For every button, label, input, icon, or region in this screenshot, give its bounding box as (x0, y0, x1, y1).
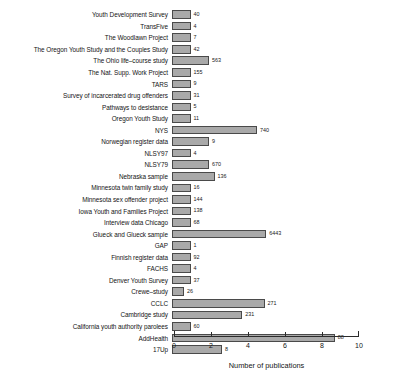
category-label: Interview data Chicago (0, 219, 172, 226)
bar (172, 253, 191, 262)
category-label: Glueck and Glueck sample (0, 231, 172, 238)
category-label: The Ohio life–course study (0, 57, 172, 64)
chart-row: Survey of incarcerated drug offenders31 (0, 90, 397, 102)
category-label: California youth authority parolees (0, 323, 172, 330)
category-label: The Oregon Youth Study and the Couples S… (0, 46, 172, 53)
publications-bar-chart: Youth Development Survey40TransFive4The … (0, 0, 397, 385)
bar-track: 4 (172, 21, 393, 33)
chart-row: Norwegian register data9 (0, 136, 397, 148)
bar (172, 45, 191, 54)
bar-track: 1 (172, 240, 393, 252)
bar-track: 155 (172, 67, 393, 79)
bar (172, 218, 191, 227)
bar-track: 68 (172, 217, 393, 229)
bar (172, 345, 222, 354)
bar (172, 160, 209, 169)
category-label: Cambridge study (0, 311, 172, 318)
bar-track: 136 (172, 171, 393, 183)
bar-value-label: 144 (194, 196, 203, 202)
bar-value-label: 9 (194, 80, 197, 86)
bar-track: 5 (172, 101, 393, 113)
x-axis-tick (211, 332, 212, 336)
category-label: The Woodlawn Project (0, 34, 172, 41)
category-label: NLSY97 (0, 150, 172, 157)
category-label: Pathways to desistance (0, 104, 172, 111)
bar-value-label: 60 (194, 323, 200, 329)
bar (172, 322, 191, 331)
bar (172, 184, 191, 193)
chart-row: AddHealth88 (0, 332, 397, 344)
bar-track: 670 (172, 159, 393, 171)
chart-row: 17Up8 (0, 344, 397, 356)
chart-row: California youth authority parolees60 (0, 321, 397, 333)
bar-value-label: 670 (212, 161, 221, 167)
bar-value-label: 155 (194, 69, 203, 75)
bar (172, 114, 191, 123)
bar-track: 144 (172, 194, 393, 206)
category-label: Youth Development Survey (0, 11, 172, 18)
category-label: Finnish register data (0, 254, 172, 261)
bar (172, 311, 242, 320)
chart-row: GAP1 (0, 240, 397, 252)
bar-value-label: 8 (225, 346, 228, 352)
category-label: TransFive (0, 23, 172, 30)
chart-row: NLSY79670 (0, 159, 397, 171)
x-axis-tick-label: 2 (209, 342, 213, 349)
x-axis-tick-label: 0 (172, 342, 176, 349)
chart-rows: Youth Development Survey40TransFive4The … (0, 9, 397, 355)
bar (172, 149, 191, 158)
x-axis-tick (174, 331, 175, 336)
bar (172, 137, 209, 146)
bar-value-label: 16 (194, 184, 200, 190)
chart-row: CCLC271 (0, 298, 397, 310)
bar (172, 80, 191, 89)
category-label: Oregon Youth Study (0, 115, 172, 122)
bar (172, 91, 191, 100)
chart-row: NYS740 (0, 124, 397, 136)
bar-value-label: 31 (194, 92, 200, 98)
bar-value-label: 5 (194, 103, 197, 109)
bar-value-label: 42 (194, 46, 200, 52)
bar-value-label: 4 (194, 23, 197, 29)
bar-value-label: 92 (194, 254, 200, 260)
bar-value-label: 9 (212, 138, 215, 144)
chart-row: The Nat. Supp. Work Project155 (0, 67, 397, 79)
bar (172, 56, 209, 65)
bar (172, 230, 266, 239)
bar (172, 33, 191, 42)
bar-track: 138 (172, 205, 393, 217)
category-label: Iowa Youth and Families Project (0, 208, 172, 215)
bar (172, 126, 257, 135)
bar-track: 740 (172, 124, 393, 136)
x-axis-tick-label: 6 (283, 342, 287, 349)
bar (172, 195, 191, 204)
bar-track: 563 (172, 55, 393, 67)
bar-track: 231 (172, 309, 393, 321)
category-label: Norwegian register data (0, 138, 172, 145)
bar-track: 271 (172, 298, 393, 310)
x-axis-tick-label: 4 (246, 342, 250, 349)
category-label: Survey of incarcerated drug offenders (0, 92, 172, 99)
chart-row: Iowa Youth and Families Project138 (0, 205, 397, 217)
chart-row: TransFive4 (0, 21, 397, 33)
bar-value-label: 7 (194, 34, 197, 40)
chart-row: TARS9 (0, 78, 397, 90)
category-label: Nebraska sample (0, 173, 172, 180)
chart-row: Cambridge study231 (0, 309, 397, 321)
bar (172, 68, 191, 77)
bar-value-label: 740 (260, 127, 269, 133)
bar-track: 9 (172, 136, 393, 148)
category-label: Denver Youth Survey (0, 277, 172, 284)
chart-row: FACHS4 (0, 263, 397, 275)
category-label: TARS (0, 81, 172, 88)
chart-row: Youth Development Survey40 (0, 9, 397, 21)
category-label: AddHealth (0, 335, 172, 342)
bar-value-label: 563 (212, 57, 221, 63)
bar (172, 10, 191, 19)
bar (172, 22, 191, 31)
bar-value-label: 136 (218, 173, 227, 179)
bar (172, 287, 184, 296)
x-axis-tick (285, 332, 286, 336)
chart-row: NLSY974 (0, 148, 397, 160)
bar-track: 42 (172, 44, 393, 56)
